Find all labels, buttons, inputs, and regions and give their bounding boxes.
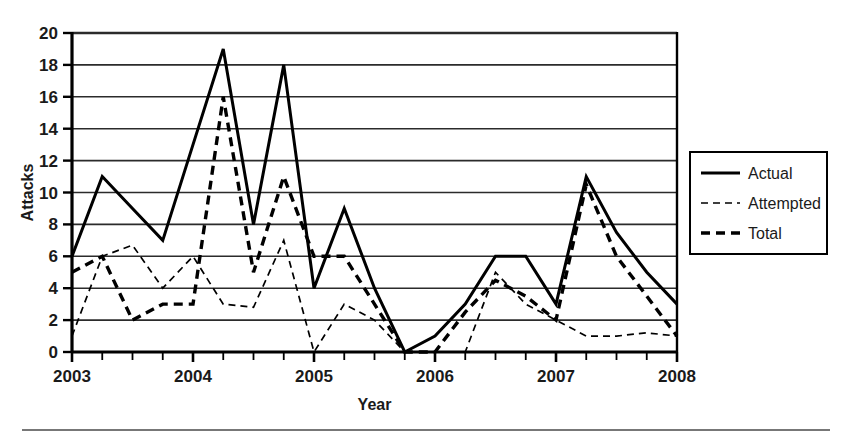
legend: ActualAttemptedTotal [690, 152, 827, 254]
y-tick-label: 6 [49, 247, 58, 266]
y-tick-label: 2 [49, 311, 58, 330]
attacks-by-year-line-chart: 0246810121416182020032004200520062007200… [0, 0, 848, 443]
x-tick-label: 2005 [295, 367, 333, 386]
y-tick-label: 4 [49, 279, 59, 298]
legend-label-attempted: Attempted [748, 195, 821, 212]
y-tick-label: 0 [49, 343, 58, 362]
y-tick-label: 8 [49, 215, 58, 234]
y-axis-ticks: 02468101214161820 [39, 24, 72, 362]
y-tick-label: 20 [39, 24, 58, 43]
y-tick-label: 16 [39, 88, 58, 107]
x-tick-label: 2006 [416, 367, 454, 386]
legend-label-total: Total [748, 225, 782, 242]
y-tick-label: 18 [39, 56, 58, 75]
x-tick-label: 2004 [174, 367, 212, 386]
y-tick-label: 14 [39, 120, 58, 139]
x-axis-title: Year [358, 396, 392, 413]
x-axis-ticks: 200320042005200620072008 [53, 352, 696, 386]
y-tick-label: 10 [39, 184, 58, 203]
y-tick-label: 12 [39, 152, 58, 171]
x-tick-label: 2007 [537, 367, 575, 386]
chart-figure: 0246810121416182020032004200520062007200… [0, 0, 848, 443]
y-axis-title: Attacks [19, 164, 36, 222]
x-tick-label: 2008 [658, 367, 696, 386]
x-tick-label: 2003 [53, 367, 91, 386]
legend-label-actual: Actual [748, 165, 792, 182]
